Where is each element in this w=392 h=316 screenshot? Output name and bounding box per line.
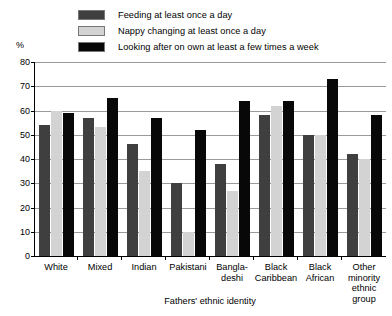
bar-group: [34, 62, 78, 256]
legend-label-feeding: Feeding at least once a day: [118, 10, 232, 20]
bar: [327, 79, 338, 256]
bar-groups: [34, 62, 386, 256]
plot-area: 01020304050607080: [34, 62, 386, 256]
chart-legend: Feeding at least once a day Nappy changi…: [78, 8, 378, 56]
legend-item-looking-after: Looking after on own at least a few time…: [78, 40, 378, 54]
bar-group: [342, 62, 386, 256]
bar: [283, 101, 294, 256]
bar: [39, 125, 50, 256]
legend-item-feeding: Feeding at least once a day: [78, 8, 378, 22]
bar-group: [166, 62, 210, 256]
legend-swatch-nappy-changing: [78, 26, 105, 36]
bar-group: [254, 62, 298, 256]
bar: [95, 127, 106, 256]
bar: [51, 111, 62, 257]
bar-chart: Feeding at least once a day Nappy changi…: [0, 0, 392, 316]
bar: [347, 154, 358, 256]
y-tick-label: 50: [20, 130, 30, 139]
bar-group: [298, 62, 342, 256]
bar: [239, 101, 250, 256]
legend-label-looking-after: Looking after on own at least a few time…: [118, 42, 319, 52]
y-axis-line: [34, 62, 35, 256]
y-tick-label: 20: [20, 203, 30, 212]
bar: [259, 115, 270, 256]
bar: [271, 106, 282, 256]
bar-group: [122, 62, 166, 256]
bar: [83, 118, 94, 256]
bar: [315, 135, 326, 256]
bar: [215, 164, 226, 256]
legend-item-nappy-changing: Nappy changing at least once a day: [78, 24, 378, 38]
bar: [151, 118, 162, 256]
bar: [303, 135, 314, 256]
bar: [63, 113, 74, 256]
bar-group: [78, 62, 122, 256]
bar: [127, 144, 138, 256]
bar: [371, 115, 382, 256]
bar-group: [210, 62, 254, 256]
bar: [359, 159, 370, 256]
bar: [139, 171, 150, 256]
y-axis-unit-label: %: [16, 40, 24, 50]
y-tick-label: 10: [20, 227, 30, 236]
y-tick-label: 70: [20, 82, 30, 91]
bar: [195, 130, 206, 256]
bar: [171, 183, 182, 256]
y-tick-label: 30: [20, 179, 30, 188]
bar: [227, 191, 238, 256]
x-axis-title: Fathers' ethnic identity: [34, 296, 386, 306]
legend-swatch-feeding: [78, 10, 105, 20]
legend-label-nappy-changing: Nappy changing at least once a day: [118, 26, 266, 36]
y-tick-label: 80: [20, 58, 30, 67]
y-tick-label: 60: [20, 106, 30, 115]
bar: [183, 232, 194, 256]
y-tick-label: 40: [20, 155, 30, 164]
legend-swatch-looking-after: [78, 42, 105, 52]
y-tick-label: 0: [25, 252, 30, 261]
bar: [107, 98, 118, 256]
